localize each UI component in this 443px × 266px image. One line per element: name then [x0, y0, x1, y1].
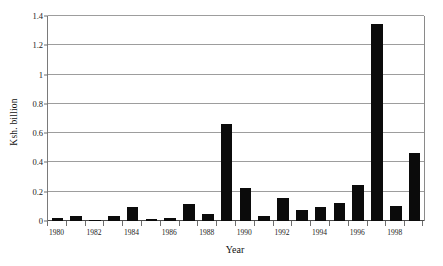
plot-area: 00.20.40.60.811.21.4 [47, 16, 425, 221]
x-axis-tick-mark [66, 221, 67, 226]
x-axis-tick [404, 221, 423, 226]
x-axis-tick [329, 221, 348, 226]
x-axis-tick-mark [235, 221, 236, 226]
x-axis-tick [310, 221, 329, 226]
x-axis-tick-mark [422, 221, 423, 226]
y-axis-tick-label: 1 [39, 70, 43, 80]
x-axis-tick [216, 221, 235, 226]
bar-slot [274, 16, 293, 221]
y-axis-tick-label: 1.2 [32, 40, 43, 50]
x-axis-tick-mark [273, 221, 274, 226]
x-axis-tick-label: 1986 [160, 227, 179, 239]
bar-slot [311, 16, 330, 221]
bar [315, 207, 327, 221]
y-axis-tick-label: 1.4 [32, 11, 43, 21]
x-axis-tick-label [66, 227, 85, 239]
x-axis-tick-label [254, 227, 273, 239]
x-axis-tick-label: 1984 [122, 227, 141, 239]
bar-slot [368, 16, 387, 221]
x-axis-tick-label [291, 227, 310, 239]
x-axis-tick-label: 1992 [273, 227, 292, 239]
x-axis-tick [273, 221, 292, 226]
x-axis-tick-mark [122, 221, 123, 226]
x-axis-tick-mark [404, 221, 405, 226]
x-axis-tick [103, 221, 122, 226]
bar-slot [86, 16, 105, 221]
x-axis-tick-mark [197, 221, 198, 226]
x-axis-tick-mark [85, 221, 86, 226]
bar [183, 204, 195, 221]
x-axis-tick [348, 221, 367, 226]
bar-slot [161, 16, 180, 221]
bar [334, 203, 346, 221]
x-axis-tick-mark [160, 221, 161, 226]
x-axis-tick-mark [216, 221, 217, 226]
x-axis-tick-mark [348, 221, 349, 226]
x-axis-tick-label: 1998 [385, 227, 404, 239]
x-axis-tick-mark [103, 221, 104, 226]
x-axis-label-group: 1980198219841986198819901992199419961998 [47, 227, 423, 239]
x-axis-tick-label: 1980 [47, 227, 66, 239]
x-axis-tick-mark [291, 221, 292, 226]
bar-slot [198, 16, 217, 221]
x-axis-tick [141, 221, 160, 226]
bar [202, 214, 214, 221]
x-axis-tick [122, 221, 141, 226]
bar-slot [292, 16, 311, 221]
x-axis-tick-mark [310, 221, 311, 226]
x-axis-tick-mark [329, 221, 330, 226]
x-axis-tick-label [329, 227, 348, 239]
x-axis-tick [66, 221, 85, 226]
x-axis-tick-label: 1990 [235, 227, 254, 239]
x-axis-tick-group [47, 221, 423, 226]
bar-slot [330, 16, 349, 221]
bar-slot [405, 16, 424, 221]
bar-chart-figure: Ksh. billion 00.20.40.60.811.21.4 198019… [0, 0, 443, 266]
x-axis-tick-mark [385, 221, 386, 226]
x-axis-tick-label [404, 227, 423, 239]
bar-slot [142, 16, 161, 221]
bar-slot [104, 16, 123, 221]
x-axis-tick-label: 1994 [310, 227, 329, 239]
bar-slot [386, 16, 405, 221]
y-axis-tick-label: 0.6 [32, 128, 43, 138]
bar-slot [255, 16, 274, 221]
bar-slot [349, 16, 368, 221]
bar [371, 24, 383, 221]
bar [352, 185, 364, 221]
bar [409, 153, 421, 221]
bars-group [48, 16, 424, 221]
bar-slot [48, 16, 67, 221]
x-axis-tick [85, 221, 104, 226]
x-axis-tick [197, 221, 216, 226]
bar [127, 207, 139, 221]
x-axis-tick [367, 221, 386, 226]
x-axis-tick-label [367, 227, 386, 239]
x-axis-tick [254, 221, 273, 226]
bar [277, 198, 289, 221]
bar-slot [180, 16, 199, 221]
x-axis-tick-mark [254, 221, 255, 226]
y-axis-tick-label: 0.2 [32, 187, 43, 197]
x-axis-tick [179, 221, 198, 226]
x-axis-tick-label [216, 227, 235, 239]
x-axis-tick-mark [179, 221, 180, 226]
bar-slot [67, 16, 86, 221]
x-axis-tick-label [179, 227, 198, 239]
x-axis-tick [160, 221, 179, 226]
bar [221, 124, 233, 221]
x-axis-title: Year [47, 244, 423, 255]
bar-slot [217, 16, 236, 221]
bar-slot [123, 16, 142, 221]
x-axis-tick [235, 221, 254, 226]
bar [240, 188, 252, 221]
x-axis-tick [385, 221, 404, 226]
y-axis-tick-label: 0.8 [32, 99, 43, 109]
x-axis-tick-mark [367, 221, 368, 226]
x-axis-tick [291, 221, 310, 226]
x-axis-tick [47, 221, 66, 226]
bar [296, 210, 308, 221]
x-axis-tick-mark [141, 221, 142, 226]
y-axis-tick-label: 0 [39, 216, 43, 226]
y-axis-tick-label: 0.4 [32, 157, 43, 167]
